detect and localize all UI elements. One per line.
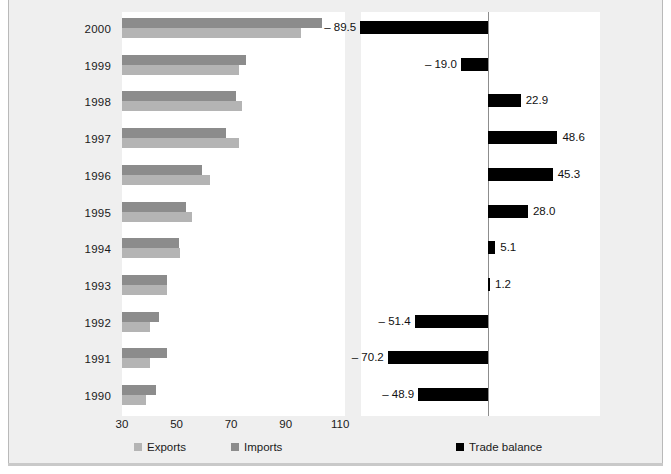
bar-exports-2000 bbox=[122, 28, 301, 38]
x-axis-tick-30: 30 bbox=[116, 418, 129, 430]
bar-trade-balance-1995 bbox=[488, 205, 528, 218]
bar-imports-1992 bbox=[122, 312, 159, 322]
value-label-trade-balance-1994: 5.1 bbox=[500, 241, 516, 254]
legend-item-trade-balance: Trade balance bbox=[456, 441, 542, 453]
value-label-trade-balance-1998: 22.9 bbox=[526, 94, 548, 107]
x-axis-tick-90: 90 bbox=[279, 418, 292, 430]
bar-imports-2000 bbox=[122, 18, 322, 28]
bar-trade-balance-1996 bbox=[488, 168, 553, 181]
y-axis-label-1994: 1994 bbox=[67, 243, 111, 255]
bar-imports-1990 bbox=[122, 385, 156, 395]
chart-row: 199822.9 bbox=[9, 85, 662, 121]
bar-imports-1998 bbox=[122, 91, 236, 101]
bar-trade-balance-1990 bbox=[418, 388, 488, 401]
chart-row: 1992– 51.4 bbox=[9, 306, 662, 342]
bar-exports-1994 bbox=[122, 248, 180, 258]
y-axis-label-1993: 1993 bbox=[67, 280, 111, 292]
value-label-trade-balance-1991: – 70.2 bbox=[352, 351, 384, 364]
y-axis-label-1990: 1990 bbox=[67, 390, 111, 402]
x-axis: 30507090110 bbox=[9, 418, 671, 436]
value-label-trade-balance-2000: – 89.5 bbox=[324, 21, 356, 34]
bar-imports-1993 bbox=[122, 275, 167, 285]
y-axis-label-1995: 1995 bbox=[67, 207, 111, 219]
chart-row: 19931.2 bbox=[9, 269, 662, 305]
bar-exports-1995 bbox=[122, 212, 192, 222]
chart-row: 199528.0 bbox=[9, 196, 662, 232]
chart-row: 199645.3 bbox=[9, 159, 662, 195]
x-axis-tick-70: 70 bbox=[225, 418, 238, 430]
value-label-trade-balance-1997: 48.6 bbox=[562, 131, 584, 144]
legend-label-imports: Imports bbox=[244, 441, 282, 453]
value-label-trade-balance-1995: 28.0 bbox=[533, 205, 555, 218]
x-axis-tick-110: 110 bbox=[331, 418, 349, 430]
value-label-trade-balance-1990: – 48.9 bbox=[382, 388, 414, 401]
bar-trade-balance-1991 bbox=[388, 351, 488, 364]
chart-row: 2000– 89.5 bbox=[9, 12, 662, 48]
chart-row: 199748.6 bbox=[9, 122, 662, 158]
bar-exports-1993 bbox=[122, 285, 167, 295]
value-label-trade-balance-1992: – 51.4 bbox=[379, 315, 411, 328]
frame-bottom-edge bbox=[8, 463, 663, 466]
bar-trade-balance-1992 bbox=[415, 315, 488, 328]
bar-exports-1992 bbox=[122, 322, 150, 332]
y-axis-label-1991: 1991 bbox=[67, 353, 111, 365]
bar-trade-balance-1999 bbox=[461, 58, 488, 71]
y-axis-label-1996: 1996 bbox=[67, 170, 111, 182]
bar-imports-1994 bbox=[122, 238, 179, 248]
x-axis-tick-50: 50 bbox=[170, 418, 183, 430]
legend-label-trade-balance: Trade balance bbox=[469, 441, 542, 453]
chart-row: 1999– 19.0 bbox=[9, 49, 662, 85]
bar-trade-balance-1998 bbox=[488, 94, 521, 107]
chart-row: 1990– 48.9 bbox=[9, 379, 662, 415]
legend-swatch-exports-icon bbox=[134, 443, 142, 451]
value-label-trade-balance-1999: – 19.0 bbox=[425, 58, 457, 71]
legend-item-imports: Imports bbox=[231, 441, 282, 453]
legend-swatch-imports-icon bbox=[231, 443, 239, 451]
y-axis-label-1992: 1992 bbox=[67, 317, 111, 329]
value-label-trade-balance-1996: 45.3 bbox=[558, 168, 580, 181]
bar-exports-1991 bbox=[122, 358, 150, 368]
chart-frame: 2000– 89.51999– 19.0199822.9199748.61996… bbox=[8, 0, 663, 464]
y-axis-label-1999: 1999 bbox=[67, 60, 111, 72]
legend-swatch-trade-balance-icon bbox=[456, 443, 464, 451]
bar-exports-1998 bbox=[122, 101, 242, 111]
legend-item-exports: Exports bbox=[134, 441, 186, 453]
chart-row: 1991– 70.2 bbox=[9, 342, 662, 378]
chart-row: 19945.1 bbox=[9, 232, 662, 268]
bar-imports-1995 bbox=[122, 202, 186, 212]
y-axis-label-2000: 2000 bbox=[67, 23, 111, 35]
value-label-trade-balance-1993: 1.2 bbox=[495, 278, 511, 291]
y-axis-label-1997: 1997 bbox=[67, 133, 111, 145]
bar-trade-balance-1994 bbox=[488, 241, 495, 254]
bar-trade-balance-2000 bbox=[360, 21, 488, 34]
bar-imports-1999 bbox=[122, 55, 246, 65]
bar-exports-1999 bbox=[122, 65, 239, 75]
bar-exports-1990 bbox=[122, 395, 146, 405]
chart-legend: Exports Imports Trade balance bbox=[9, 441, 671, 461]
legend-label-exports: Exports bbox=[147, 441, 186, 453]
bar-imports-1997 bbox=[122, 128, 226, 138]
bar-imports-1991 bbox=[122, 348, 167, 358]
bar-exports-1997 bbox=[122, 138, 239, 148]
bar-exports-1996 bbox=[122, 175, 210, 185]
y-axis-label-1998: 1998 bbox=[67, 96, 111, 108]
bar-trade-balance-1993 bbox=[488, 278, 490, 291]
bar-trade-balance-1997 bbox=[488, 131, 557, 144]
bar-imports-1996 bbox=[122, 165, 202, 175]
